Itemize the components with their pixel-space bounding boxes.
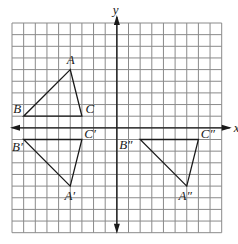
axes: xy — [10, 2, 238, 234]
x-axis-label: x — [233, 120, 238, 135]
coordinate-plane: xy ABCA′B′C′A″B″C″ — [0, 0, 238, 244]
vertex-label: B″ — [119, 137, 133, 152]
x-axis-right-arrow-icon — [222, 125, 232, 131]
vertex-label: C — [85, 101, 94, 116]
y-axis-label: y — [111, 2, 119, 17]
vertex-label: C″ — [201, 126, 216, 141]
vertex-label: A′ — [63, 188, 75, 203]
vertex-label: A — [66, 52, 75, 67]
vertex-label: B — [13, 101, 21, 116]
vertex-label: A″ — [178, 188, 193, 203]
vertex-label: B′ — [12, 139, 23, 154]
vertex-label: C′ — [84, 126, 96, 141]
